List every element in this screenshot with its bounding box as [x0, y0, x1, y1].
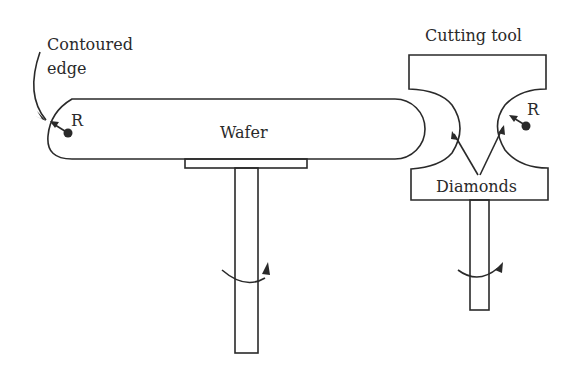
- arrowhead-icon: [509, 115, 518, 122]
- wafer-label: Wafer: [220, 124, 268, 142]
- arrowhead-icon: [262, 262, 270, 275]
- contoured-edge-label: Contoured: [47, 36, 133, 54]
- diamond-pointer-right: [480, 127, 503, 175]
- diamonds-label: Diamonds: [436, 178, 517, 196]
- center-point-tool: [522, 122, 531, 131]
- rotation-arrow-icon: [458, 268, 498, 277]
- arrowhead-icon: [451, 131, 458, 140]
- radius-label-wafer: R: [71, 112, 83, 130]
- cutting-tool-label: Cutting tool: [425, 27, 522, 45]
- contoured-edge-label-2: edge: [47, 60, 86, 78]
- tool-spindle: [470, 200, 489, 310]
- arrowhead-icon: [495, 262, 503, 273]
- diamond-pointer-left: [454, 134, 478, 175]
- contoured-edge-pointer: [34, 52, 46, 120]
- wafer-pedestal: [185, 159, 307, 168]
- wafer-spindle: [235, 168, 258, 353]
- radius-label-tool: R: [527, 101, 539, 119]
